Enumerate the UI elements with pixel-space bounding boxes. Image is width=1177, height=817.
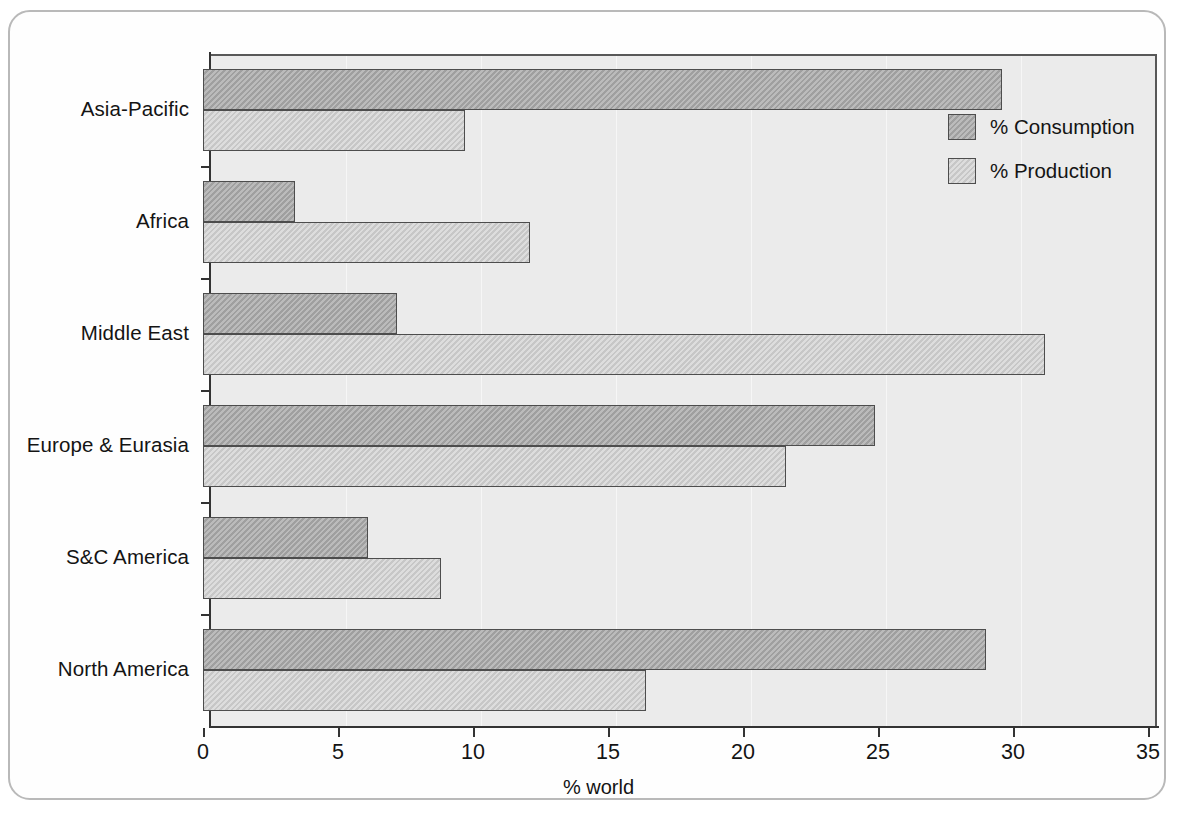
- x-axis-tick-label: 25: [848, 740, 908, 765]
- x-axis-line: [209, 726, 1159, 728]
- x-axis-tick: [473, 728, 475, 737]
- x-axis-tick: [338, 728, 340, 737]
- x-axis-tick-label: 15: [578, 740, 638, 765]
- legend-label-consumption: % Consumption: [990, 115, 1135, 139]
- bar-consumption: [203, 293, 397, 334]
- legend-item-production[interactable]: % Production: [948, 156, 1160, 186]
- category-label-1: Africa: [10, 209, 189, 233]
- x-axis-tick: [878, 728, 880, 737]
- gridline: [481, 56, 482, 726]
- category-label-4: S&C America: [10, 545, 189, 569]
- bar-consumption: [203, 181, 295, 222]
- x-axis-tick-label: 0: [173, 740, 233, 765]
- x-axis-tick: [1148, 728, 1150, 737]
- y-axis-tick: [201, 278, 210, 280]
- x-axis-tick-label: 30: [983, 740, 1043, 765]
- bar-production: [203, 670, 646, 711]
- bar-production: [203, 334, 1045, 375]
- bar-consumption: [203, 517, 368, 558]
- bar-production: [203, 110, 465, 151]
- y-axis-tick: [201, 614, 210, 616]
- x-axis-tick: [1013, 728, 1015, 737]
- y-axis-tick: [201, 502, 210, 504]
- bar-consumption: [203, 405, 875, 446]
- production-swatch: [948, 158, 976, 184]
- chart-legend: % Consumption % Production: [948, 112, 1160, 200]
- gridline: [751, 56, 752, 726]
- legend-label-production: % Production: [990, 159, 1112, 183]
- x-axis-tick: [608, 728, 610, 737]
- category-label-5: North America: [10, 657, 189, 681]
- gridline: [886, 56, 887, 726]
- y-axis-tick: [201, 166, 210, 168]
- bar-consumption: [203, 629, 986, 670]
- gridline: [616, 56, 617, 726]
- consumption-swatch: [948, 114, 976, 140]
- x-axis-tick-label: 5: [308, 740, 368, 765]
- legend-item-consumption[interactable]: % Consumption: [948, 112, 1160, 142]
- bar-production: [203, 446, 786, 487]
- bar-production: [203, 222, 530, 263]
- category-label-3: Europe & Eurasia: [10, 433, 189, 457]
- x-axis-tick: [203, 728, 205, 737]
- y-axis-tick: [201, 390, 210, 392]
- gridline: [346, 56, 347, 726]
- bar-consumption: [203, 69, 1002, 110]
- bar-production: [203, 558, 441, 599]
- category-label-2: Middle East: [10, 321, 189, 345]
- category-label-0: Asia-Pacific: [10, 97, 189, 121]
- x-axis-tick-label: 35: [1118, 740, 1177, 765]
- figure-card: 05101520253035 Asia-PacificAfricaMiddle …: [8, 10, 1166, 800]
- x-axis-tick-label: 10: [443, 740, 503, 765]
- x-axis-tick-label: 20: [713, 740, 773, 765]
- x-axis-tick: [743, 728, 745, 737]
- x-axis-title: % world: [10, 776, 1177, 799]
